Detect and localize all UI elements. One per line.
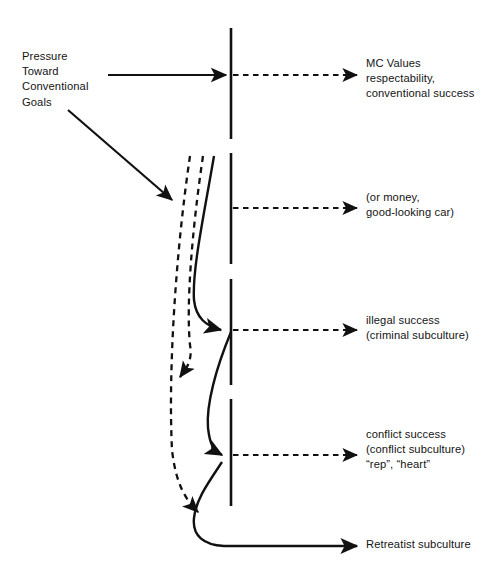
- open-path-conflict: [208, 332, 231, 455]
- blocked-path-upper-line: [180, 156, 203, 377]
- label-money-good-looking-car: (or money, good-looking car): [366, 190, 454, 220]
- blocked-path-lower: [171, 156, 198, 512]
- open-path-illegal-line: [194, 156, 221, 330]
- label-mc-values: MC Values respectability, conventional s…: [366, 56, 474, 102]
- blocked-path-lower-line: [171, 156, 198, 512]
- label-pressure-toward-conventional-goals: Pressure Toward Conventional Goals: [22, 49, 89, 110]
- pressure-diagonal-line: [68, 110, 172, 200]
- label-retreatist-subculture: Retreatist subculture: [366, 537, 471, 552]
- open-path-retreatist: [194, 462, 357, 546]
- label-illegal-success: illegal success (criminal subculture): [366, 313, 469, 343]
- open-path-illegal: [194, 156, 221, 330]
- pressure-diagonal-arrow: [68, 110, 172, 200]
- open-path-conflict-line: [208, 332, 231, 455]
- blocked-path-upper: [180, 156, 203, 377]
- label-conflict-success: conflict success (conflict subculture) “…: [366, 427, 465, 473]
- open-path-retreatist-line: [194, 462, 357, 546]
